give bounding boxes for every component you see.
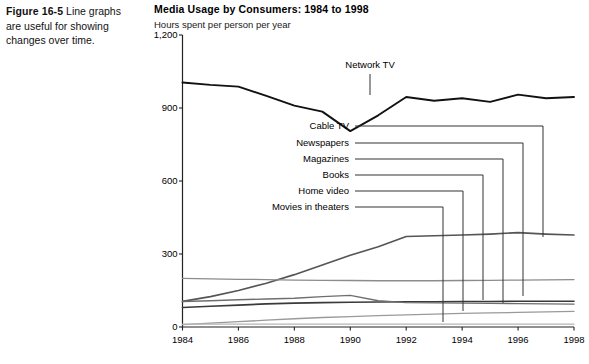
callout-label-home-video: Home video bbox=[190, 185, 349, 196]
series-line-newspapers bbox=[183, 301, 575, 307]
series-line-cable-tv bbox=[183, 233, 575, 302]
x-tick-label: 1996 bbox=[498, 334, 538, 345]
x-tick-label: 1984 bbox=[163, 334, 203, 345]
x-tick-label: 1994 bbox=[442, 334, 482, 345]
axes-layer bbox=[179, 35, 574, 331]
y-tick-label: 600 bbox=[142, 175, 178, 186]
y-tick-label: 300 bbox=[142, 248, 178, 259]
series-line-home-video bbox=[183, 311, 575, 324]
chart-block: Media Usage by Consumers: 1984 to 1998 H… bbox=[150, 0, 574, 364]
callout-label-network-tv: Network TV bbox=[330, 59, 410, 70]
x-tick-label: 1992 bbox=[386, 334, 426, 345]
figure-number: Figure 16-5 bbox=[6, 5, 63, 17]
callout-label-newspapers: Newspapers bbox=[190, 137, 349, 148]
x-tick-label: 1998 bbox=[554, 334, 589, 345]
callout-label-movies-in-theaters: Movies in theaters bbox=[190, 201, 349, 212]
series-line-magazines bbox=[183, 295, 575, 304]
plot-area: 03006009001,200 198419861988199019921994… bbox=[150, 0, 574, 364]
leader-line-movies-in-theaters bbox=[355, 207, 443, 322]
x-tick-label: 1990 bbox=[330, 334, 370, 345]
callout-label-books: Books bbox=[190, 169, 349, 180]
x-tick-label: 1986 bbox=[218, 334, 258, 345]
callout-label-magazines: Magazines bbox=[190, 153, 349, 164]
figure-caption: Figure 16-5 Line graphs are useful for s… bbox=[6, 4, 128, 48]
y-tick-label: 900 bbox=[142, 102, 178, 113]
series-line-books bbox=[183, 278, 575, 280]
leader-line-home-video bbox=[355, 191, 463, 311]
y-tick-label: 0 bbox=[142, 321, 178, 332]
callout-label-cable-tv: Cable TV bbox=[190, 120, 349, 131]
line-chart-svg bbox=[150, 0, 574, 364]
x-tick-label: 1988 bbox=[274, 334, 314, 345]
leader-line-newspapers bbox=[355, 143, 523, 296]
y-tick-label: 1,200 bbox=[142, 29, 178, 40]
